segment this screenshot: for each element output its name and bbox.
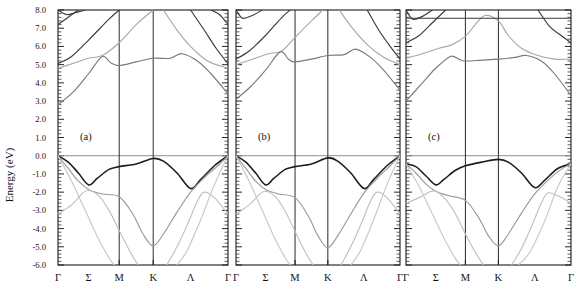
band-curve [177, 156, 228, 265]
y-tick-label: -1.0 [32, 169, 46, 179]
x-tick-label: Λ [531, 272, 539, 283]
band-curve [58, 190, 138, 265]
panel-label: (a) [80, 131, 92, 143]
band-curve [236, 191, 313, 265]
band-curve [406, 164, 571, 246]
x-tick-label: M [461, 272, 471, 283]
figure-svg: Energy (eV)8.07.06.05.04.03.02.01.00.0-1… [0, 0, 579, 296]
y-tick-label: 3.0 [35, 96, 46, 106]
panel-label: (b) [258, 131, 271, 143]
x-tick-label: Σ [86, 272, 92, 283]
band-curve [58, 10, 153, 68]
y-tick-label: -4.0 [32, 224, 46, 234]
band-curve [236, 156, 400, 248]
y-tick-label: -3.0 [32, 205, 46, 215]
x-tick-label: Λ [360, 272, 368, 283]
band-curve [406, 55, 571, 101]
panel-a: (a) [58, 10, 228, 265]
band-curve [58, 10, 85, 15]
y-tick-label: 0.0 [35, 151, 46, 161]
y-tick-label: 7.0 [35, 23, 46, 33]
band-curve [236, 156, 400, 189]
y-tick-label: 1.0 [35, 133, 46, 143]
panel-label: (c) [428, 131, 440, 143]
x-tick-label: Σ [262, 272, 268, 283]
x-tick-label: K [495, 272, 503, 283]
y-tick-label: 8.0 [35, 5, 46, 15]
panel-c: (c) [406, 10, 571, 265]
x-tick-label: Γ [55, 272, 61, 283]
y-tick-label: -5.0 [32, 242, 46, 252]
x-tick-label: M [290, 272, 300, 283]
band-curve [406, 159, 571, 187]
y-axis-title: Energy (eV) [3, 147, 16, 202]
band-curve [367, 10, 400, 59]
y-tick-label: 5.0 [35, 60, 46, 70]
x-tick-label: Λ [187, 272, 195, 283]
y-tick-label: 2.0 [35, 114, 46, 124]
panel-b: (b) [236, 10, 400, 265]
y-tick-label: 4.0 [35, 78, 46, 88]
band-curve [406, 191, 484, 265]
x-tick-label: Γ [225, 272, 231, 283]
band-structure-figure: Energy (eV)8.07.06.05.04.03.02.01.00.0-1… [0, 0, 579, 296]
x-tick-label: Γ [233, 272, 239, 283]
y-tick-label: -6.0 [32, 260, 46, 270]
x-tick-label: Σ [433, 272, 439, 283]
x-tick-label: Γ [568, 272, 574, 283]
x-tick-label: M [115, 272, 125, 283]
x-tick-label: Γ [403, 272, 409, 283]
x-tick-label: K [324, 272, 332, 283]
x-tick-label: K [149, 272, 157, 283]
band-curve [236, 10, 262, 18]
band-curve [406, 164, 460, 265]
band-curve [236, 10, 323, 65]
y-tick-label: 6.0 [35, 41, 46, 51]
band-curve [58, 156, 228, 189]
band-curve [58, 156, 228, 246]
band-curve [58, 54, 228, 105]
band-curve [351, 156, 400, 265]
band-curve [538, 10, 571, 43]
y-tick-label: -2.0 [32, 187, 46, 197]
